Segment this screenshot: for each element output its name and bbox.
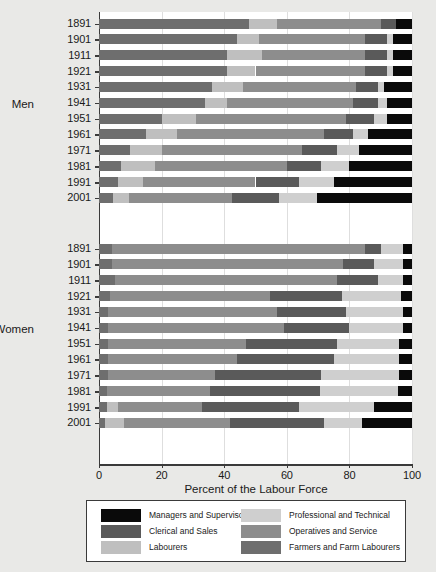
y-tick — [95, 182, 99, 184]
bar-segment — [243, 82, 356, 92]
y-axis-year-label: 1961 — [45, 128, 91, 140]
bar-segment — [115, 275, 337, 285]
y-axis-year-label: 1961 — [45, 353, 91, 365]
bar-row — [99, 323, 412, 333]
bar-segment — [227, 50, 261, 60]
y-axis-year-label: 1891 — [45, 17, 91, 29]
bar-segment — [155, 161, 286, 171]
bar-segment — [230, 418, 324, 428]
bar-segment — [302, 145, 336, 155]
bar-segment — [374, 114, 387, 124]
bar-segment — [99, 145, 130, 155]
bar-segment — [287, 161, 321, 171]
x-tick — [99, 464, 100, 468]
bar-segment — [99, 34, 237, 44]
bar-segment — [356, 82, 378, 92]
bar-segment — [146, 129, 177, 139]
bar-segment — [227, 66, 255, 76]
bar-segment — [99, 275, 115, 285]
bar-segment — [99, 370, 108, 380]
bar-segment — [108, 370, 214, 380]
y-tick — [95, 296, 99, 298]
bar-segment — [256, 66, 366, 76]
y-tick — [95, 344, 99, 346]
legend-item: Clerical and Sales — [101, 525, 241, 539]
bar-row — [99, 50, 412, 60]
bar-segment — [108, 354, 236, 364]
bar-segment — [113, 193, 129, 203]
y-axis-year-label: 1931 — [45, 305, 91, 317]
y-tick — [95, 359, 99, 361]
bar-segment — [277, 19, 380, 29]
legend-item: Labourers — [101, 541, 241, 555]
bar-segment — [259, 34, 365, 44]
bar-segment — [262, 50, 365, 60]
bar-segment — [237, 34, 259, 44]
bar-segment — [346, 307, 402, 317]
bar-segment — [387, 114, 412, 124]
bar-segment — [343, 259, 374, 269]
bar-segment — [393, 50, 412, 60]
y-tick — [95, 407, 99, 409]
bar-row — [99, 402, 412, 412]
x-tick-label: 80 — [329, 469, 369, 481]
y-tick — [95, 328, 99, 330]
group-label-women: Women — [0, 323, 34, 335]
bar-segment — [359, 145, 412, 155]
y-tick — [95, 391, 99, 393]
x-tick — [224, 464, 225, 468]
y-tick — [95, 24, 99, 26]
bar-segment — [177, 129, 324, 139]
bar-segment — [210, 386, 320, 396]
bar-segment — [334, 354, 400, 364]
bar-row — [99, 145, 412, 155]
bar-segment — [396, 19, 412, 29]
bar-row — [99, 161, 412, 171]
bar-segment — [342, 291, 401, 301]
bar-segment — [256, 177, 300, 187]
figure-canvas: 020406080100 Percent of the Labour Force… — [0, 0, 436, 572]
bar-segment — [337, 339, 400, 349]
y-tick — [95, 198, 99, 200]
gridline — [162, 12, 163, 464]
y-axis-year-label: 1951 — [45, 112, 91, 124]
bar-row — [99, 339, 412, 349]
gridline — [287, 12, 288, 464]
legend-swatch — [101, 541, 141, 554]
bar-segment — [99, 50, 227, 60]
bar-row — [99, 291, 412, 301]
bar-segment — [99, 386, 107, 396]
bar-segment — [215, 370, 321, 380]
bar-segment — [112, 259, 344, 269]
bar-segment — [130, 145, 161, 155]
bar-segment — [349, 323, 402, 333]
y-tick — [95, 119, 99, 121]
bar-segment — [399, 354, 412, 364]
legend-swatch — [241, 525, 281, 538]
y-axis-year-label: 1941 — [45, 321, 91, 333]
bar-segment — [387, 98, 412, 108]
bar-row — [99, 66, 412, 76]
bar-segment — [299, 402, 374, 412]
bar-segment — [205, 98, 227, 108]
y-axis-year-label: 1971 — [45, 369, 91, 381]
bar-segment — [99, 244, 112, 254]
bar-segment — [99, 354, 108, 364]
y-tick — [95, 87, 99, 89]
bar-row — [99, 193, 412, 203]
bar-segment — [337, 145, 359, 155]
bar-segment — [99, 193, 113, 203]
x-tick — [412, 464, 413, 468]
legend-swatch — [101, 509, 141, 522]
legend-label: Clerical and Sales — [149, 526, 218, 536]
bar-segment — [320, 386, 398, 396]
y-tick — [95, 423, 99, 425]
bar-segment — [365, 34, 387, 44]
x-tick-label: 0 — [79, 469, 119, 481]
bar-row — [99, 259, 412, 269]
bar-segment — [99, 307, 108, 317]
bar-segment — [107, 402, 118, 412]
x-axis-line — [99, 464, 413, 466]
bar-segment — [381, 19, 397, 29]
x-axis-label: Percent of the Labour Force — [99, 483, 413, 495]
